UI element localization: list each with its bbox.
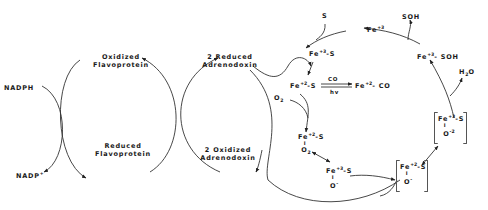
reduced-flavoprotein-label: Reduced Flavoprotein xyxy=(88,142,158,158)
o2-sub: 2 xyxy=(280,98,283,103)
o2-in-arc xyxy=(290,100,308,118)
fe3-base: Fe xyxy=(367,26,377,34)
oxidized-flavo-line1: Oxidized xyxy=(86,53,156,61)
fe3soh-suffix: - SOH xyxy=(434,53,459,61)
fe3-s-o2-minus-complex: Fe+3-S I O- xyxy=(326,165,352,190)
fe3-label: Fe+3 xyxy=(367,24,384,34)
product-out-arc xyxy=(408,20,411,40)
fe3so2-suffix: -S xyxy=(343,167,352,175)
nadp-plus-label: NADP+ xyxy=(16,170,44,180)
reduced-flavo-line2: Flavoprotein xyxy=(88,150,158,158)
fe3-soh-label: Fe+3- SOH xyxy=(417,51,459,61)
bfe3-ligand: O-2 xyxy=(438,128,460,138)
fe2so2-ligand: O2 xyxy=(298,146,314,157)
fe3-charge: +3 xyxy=(377,25,384,30)
bracket-right-fe3 xyxy=(463,112,467,144)
bfe2-ligand: O- xyxy=(400,176,416,186)
fe2s-base: Fe xyxy=(290,82,300,90)
bracket-to-fe3soh-arc xyxy=(430,60,454,118)
fe2co-suffix: - CO xyxy=(372,82,390,90)
fe2s-suffix: -S xyxy=(307,82,316,90)
fe2-co-label: Fe+2- CO xyxy=(355,80,391,90)
co-label: CO xyxy=(328,75,338,83)
water-label: H2O xyxy=(459,68,475,79)
fe2so2-suffix: -S xyxy=(315,133,324,141)
fe3so2-ligand-charge: - xyxy=(336,181,338,186)
fe2s-to-fe2so2-arrow xyxy=(300,94,308,132)
fe3-s-label: Fe+3-S xyxy=(309,48,335,58)
water-o: O xyxy=(468,68,474,76)
oxidized-adreno-line2: Adrenodoxin xyxy=(193,154,263,162)
reduced-adrenodoxin-label: 2 Reduced Adrenodoxin xyxy=(195,53,265,69)
fe3so2-to-bracket-arc xyxy=(350,175,395,180)
hv-label: hv xyxy=(330,88,339,96)
nadp-charge: + xyxy=(40,171,44,176)
fe3so2-top: Fe+3-S xyxy=(326,167,352,175)
oxidized-flavoprotein-label: Oxidized Flavoprotein xyxy=(86,53,156,69)
bracket-fe3-s-o2-2minus-complex: Fe+3-S I O-2 xyxy=(438,113,464,138)
fe3s-base: Fe xyxy=(309,50,319,58)
reduced-adreno-line1: 2 Reduced xyxy=(195,53,265,61)
fe2-s-o2-complex: Fe+2-S I O2 xyxy=(298,131,324,157)
water-out-arc xyxy=(450,78,462,96)
adreno-to-bracket-arc xyxy=(380,180,397,196)
bfe3-ligand-charge: -2 xyxy=(450,129,455,134)
nadph-label: NADPH xyxy=(4,84,34,92)
substrate-label: S xyxy=(322,12,327,20)
fe2-s-label: Fe+2-S xyxy=(290,80,316,90)
fe3soh-base: Fe xyxy=(417,53,427,61)
o2-input-label: O2 xyxy=(274,94,284,105)
fe2so2-ligand-sub: 2 xyxy=(308,150,311,155)
nadph-arc xyxy=(42,86,63,172)
bracket-fe2-s-o2-minus-complex: Fe+2-S I O- xyxy=(400,161,426,186)
oxidized-adrenodoxin-label: 2 Oxidized Adrenodoxin xyxy=(193,146,263,162)
reduced-flavo-line1: Reduced xyxy=(88,142,158,150)
oxidized-flavo-line2: Flavoprotein xyxy=(86,61,156,69)
bfe2-top: Fe+2-S xyxy=(400,163,426,171)
fe3-to-fe3s-arc xyxy=(306,31,346,48)
product-soh-label: SOH xyxy=(402,13,420,21)
flavo-reduced-arc-left xyxy=(60,60,86,178)
fe3so2-ligand: O- xyxy=(326,180,342,190)
oxidized-adreno-line1: 2 Oxidized xyxy=(193,146,263,154)
fe2so2-top: Fe+2-S xyxy=(298,133,324,141)
fe2co-base: Fe xyxy=(355,82,365,90)
nadp-text: NADP xyxy=(16,172,40,180)
fe3s-suffix: -S xyxy=(326,50,335,58)
bfe3-top: Fe+3-S xyxy=(438,115,464,123)
bracket-right-fe2 xyxy=(424,160,428,192)
reduced-adreno-line2: Adrenodoxin xyxy=(195,61,265,69)
bfe2-ligand-charge: - xyxy=(410,177,412,182)
